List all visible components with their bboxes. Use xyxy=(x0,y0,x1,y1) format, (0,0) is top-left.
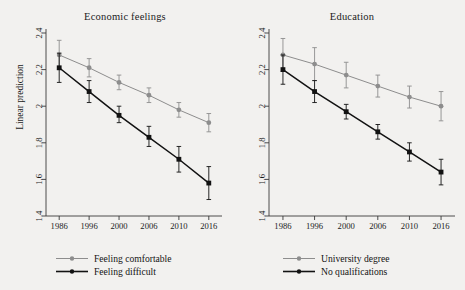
legend-item[interactable]: Feeling comfortable xyxy=(0,252,232,265)
svg-text:2.4: 2.4 xyxy=(34,27,44,38)
legend-swatch-dark xyxy=(283,266,315,277)
legend-label: University degree xyxy=(321,253,389,264)
svg-text:1.8: 1.8 xyxy=(34,137,44,148)
legend-item[interactable]: University degree xyxy=(233,252,465,265)
svg-text:1996: 1996 xyxy=(306,221,324,231)
legend-education: University degree No qualifications xyxy=(233,252,465,278)
svg-text:2010: 2010 xyxy=(170,221,187,231)
svg-text:1.4: 1.4 xyxy=(34,210,44,221)
plot-area-economic-feelings: 1.41.61.822.22.4198619962000200620102016 xyxy=(0,0,232,290)
panel-education: Education 1.41.61.822.22.419861996200020… xyxy=(233,0,465,290)
legend-swatch-light xyxy=(283,253,315,264)
svg-text:2000: 2000 xyxy=(338,221,355,231)
panel-economic-feelings: Economic feelings Linear prediction 1.41… xyxy=(0,0,232,290)
svg-text:2: 2 xyxy=(34,104,44,108)
figure-root: Economic feelings Linear prediction 1.41… xyxy=(0,0,465,290)
svg-text:1.6: 1.6 xyxy=(257,173,267,184)
plot-area-education: 1.41.61.822.22.4198619962000200620102016 xyxy=(233,0,465,290)
svg-text:1.4: 1.4 xyxy=(257,210,267,221)
svg-text:2006: 2006 xyxy=(369,221,387,231)
legend-label: Feeling difficult xyxy=(94,266,156,277)
legend-label: No qualifications xyxy=(321,266,387,277)
svg-text:2.2: 2.2 xyxy=(257,64,267,75)
svg-text:2000: 2000 xyxy=(110,221,127,231)
svg-text:2006: 2006 xyxy=(140,221,158,231)
legend-item[interactable]: No qualifications xyxy=(233,265,465,278)
svg-text:2010: 2010 xyxy=(401,221,418,231)
svg-text:1996: 1996 xyxy=(81,221,99,231)
svg-text:2.2: 2.2 xyxy=(34,64,44,75)
svg-text:1.8: 1.8 xyxy=(257,137,267,148)
svg-text:2.4: 2.4 xyxy=(257,27,267,38)
svg-text:2016: 2016 xyxy=(200,221,218,231)
svg-text:1986: 1986 xyxy=(274,221,292,231)
svg-text:1986: 1986 xyxy=(51,221,69,231)
svg-text:1.6: 1.6 xyxy=(34,173,44,184)
legend-economic-feelings: Feeling comfortable Feeling difficult xyxy=(0,252,232,278)
legend-swatch-light xyxy=(56,253,88,264)
legend-item[interactable]: Feeling difficult xyxy=(0,265,232,278)
legend-label: Feeling comfortable xyxy=(94,253,172,264)
svg-text:2016: 2016 xyxy=(432,221,450,231)
legend-swatch-dark xyxy=(56,266,88,277)
svg-text:2: 2 xyxy=(257,104,267,108)
